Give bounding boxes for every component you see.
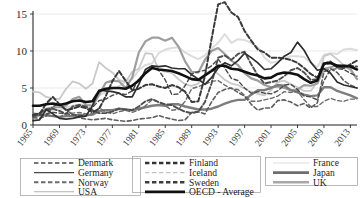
legend-label-japan[interactable]: Japan xyxy=(313,168,335,178)
y-axis-tick-labels-group: 051015 xyxy=(16,8,28,131)
legend-label-uk[interactable]: UK xyxy=(313,178,327,188)
legend-label-denmark[interactable]: Denmark xyxy=(78,158,114,168)
x-tick-label: 1985 xyxy=(147,127,167,148)
unemployment-rate-line-chart: 051015 196519691973197719811985198919931… xyxy=(0,0,361,198)
x-tick-label: 1965 xyxy=(15,127,35,148)
x-tick-label: 1969 xyxy=(41,127,61,148)
legend-label-iceland[interactable]: Iceland xyxy=(189,168,217,178)
legend-label-germany[interactable]: Germany xyxy=(78,168,114,178)
x-tick-label: 1989 xyxy=(174,127,194,148)
legend-label-oecd-average[interactable]: OECD - Average xyxy=(189,187,254,197)
x-tick-label: 1973 xyxy=(68,127,88,148)
x-tick-label: 1981 xyxy=(121,127,141,148)
data-series-group xyxy=(33,2,357,121)
x-tick-label: 1997 xyxy=(227,127,247,148)
chart-canvas: 051015 196519691973197719811985198919931… xyxy=(0,0,361,198)
legend-label-usa[interactable]: USA xyxy=(78,187,97,197)
x-axis-tick-labels-group: 1965196919731977198119851989199319972001… xyxy=(15,127,352,148)
x-tick-label: 2001 xyxy=(253,127,273,148)
x-tick-label: 1977 xyxy=(94,127,114,148)
legend-label-france[interactable]: France xyxy=(313,158,339,168)
chart-legend: DenmarkGermanyNorwayUSAFinlandIcelandSwe… xyxy=(21,157,358,198)
x-tick-label: 2005 xyxy=(279,127,299,148)
legend-label-finland[interactable]: Finland xyxy=(189,158,218,168)
x-tick-label: 2013 xyxy=(332,127,352,148)
y-tick-label: 15 xyxy=(16,8,28,20)
x-tick-label: 2009 xyxy=(306,127,326,148)
legend-label-norway[interactable]: Norway xyxy=(78,178,109,188)
legend-label-sweden[interactable]: Sweden xyxy=(189,178,219,188)
y-tick-label: 10 xyxy=(16,45,28,57)
y-tick-label: 5 xyxy=(22,82,28,94)
x-tick-label: 1993 xyxy=(200,127,220,148)
